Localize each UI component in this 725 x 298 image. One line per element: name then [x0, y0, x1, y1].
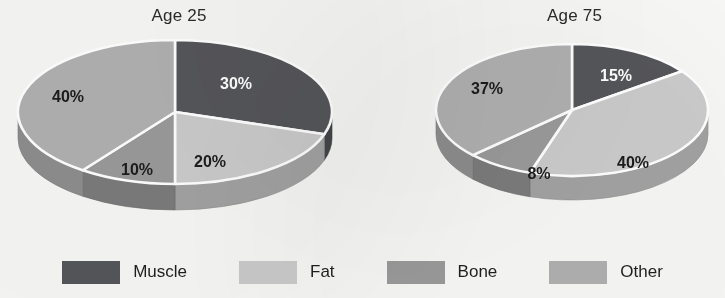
legend-swatch-bone	[387, 261, 445, 284]
legend-swatch-other	[549, 261, 607, 284]
legend-label-other: Other	[620, 262, 663, 282]
pie-body-age-75: 15%40%8%37%	[432, 34, 717, 234]
legend-label-bone: Bone	[458, 262, 498, 282]
pie-title-age-75: Age 75	[432, 6, 717, 26]
pie-body-age-25: 30%20%10%40%	[14, 34, 344, 234]
legend-item-bone: Bone	[387, 261, 498, 284]
pie-title-age-25: Age 25	[14, 6, 344, 26]
legend-swatch-fat	[239, 261, 297, 284]
legend-item-other: Other	[549, 261, 663, 284]
legend-label-fat: Fat	[310, 262, 335, 282]
pie-chart-age-75: Age 75 15%40%8%37%	[432, 0, 717, 245]
legend-label-muscle: Muscle	[133, 262, 187, 282]
charts-container: Age 25 30%20%10%40% Age 75 15%40%8%37%	[0, 0, 725, 245]
legend-swatch-muscle	[62, 261, 120, 284]
legend-item-muscle: Muscle	[62, 261, 187, 284]
chart-legend: Muscle Fat Bone Other	[0, 246, 725, 298]
legend-item-fat: Fat	[239, 261, 335, 284]
pie-chart-age-25: Age 25 30%20%10%40%	[14, 0, 344, 245]
